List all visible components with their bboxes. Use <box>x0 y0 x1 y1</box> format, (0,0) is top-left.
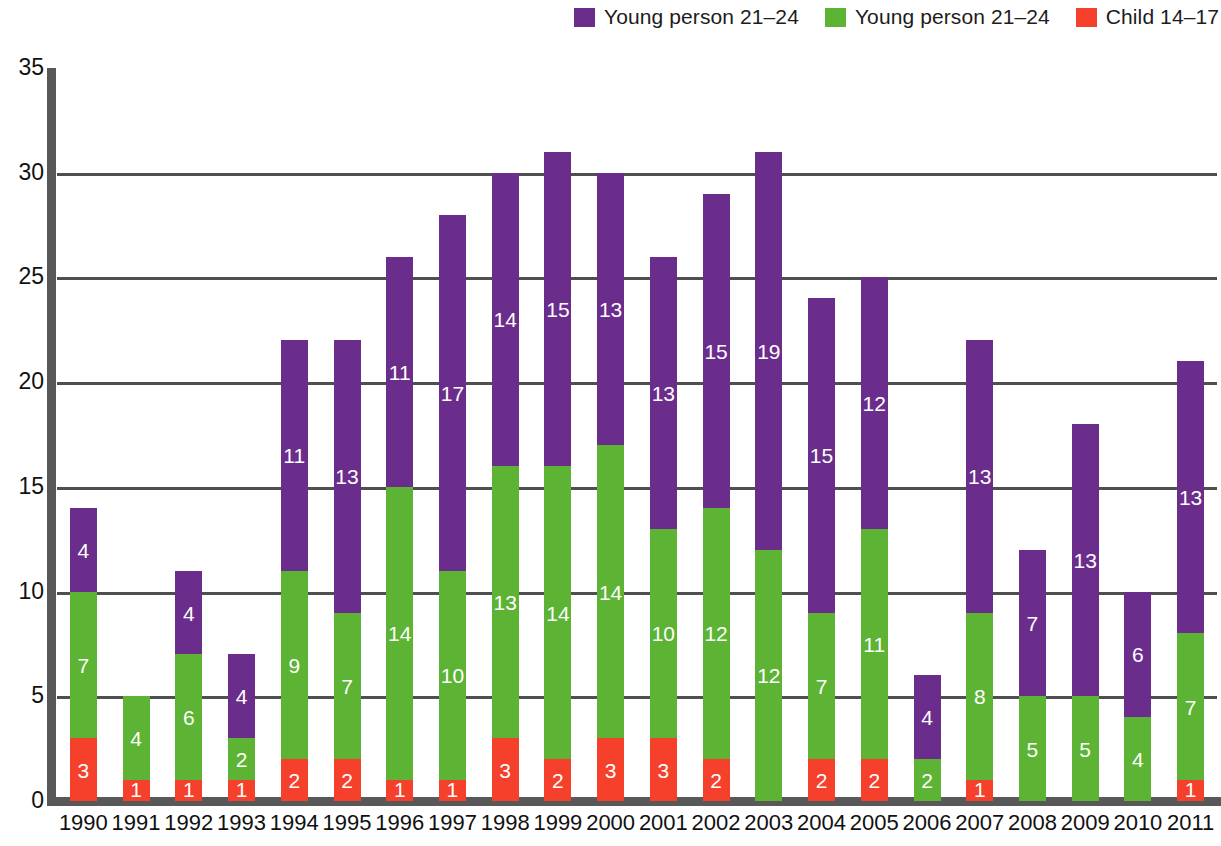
legend-label: Young person 21–24 <box>604 5 799 29</box>
bar-value-label: 2 <box>236 749 248 770</box>
bar-value-label: 4 <box>78 540 90 561</box>
bar-value-label: 2 <box>288 770 300 791</box>
bar-group[interactable]: 2715 <box>808 68 835 801</box>
y-tick-label: 0 <box>0 787 44 814</box>
y-tick-label: 5 <box>0 682 44 709</box>
chart-legend: Young person 21–24Young person 21–24Chil… <box>0 0 1221 34</box>
bar-value-label: 4 <box>183 603 195 624</box>
bar-value-label: 3 <box>658 760 670 781</box>
x-tick-label: 2005 <box>848 810 901 836</box>
bar-value-label: 4 <box>236 686 248 707</box>
bar-value-label: 14 <box>546 603 569 624</box>
bar-value-label: 15 <box>810 445 833 466</box>
y-tick-label: 30 <box>0 159 44 186</box>
legend-swatch-purple <box>574 8 595 27</box>
bar-group[interactable]: 024 <box>914 68 941 801</box>
x-axis-tick-labels: 1990199119921993199419951996199719981999… <box>57 810 1217 846</box>
x-tick-label: 1991 <box>110 810 163 836</box>
bar-value-label: 2 <box>921 770 933 791</box>
bar-group[interactable]: 1713 <box>1177 68 1204 801</box>
bar-group[interactable]: 2713 <box>334 68 361 801</box>
bar-group[interactable]: 140 <box>123 68 150 801</box>
x-tick-label: 2011 <box>1164 810 1217 836</box>
bar-group[interactable]: 01219 <box>755 68 782 801</box>
bar-group[interactable]: 2911 <box>281 68 308 801</box>
bar-value-label: 0 <box>130 674 142 695</box>
bar-value-label: 1 <box>447 779 459 800</box>
y-tick-label: 15 <box>0 473 44 500</box>
x-tick-label: 1997 <box>426 810 479 836</box>
bar-value-label: 15 <box>546 299 569 320</box>
plot-area: 3741401641242911271311411110173131421415… <box>57 68 1217 801</box>
legend-item[interactable]: Young person 21–24 <box>574 5 799 29</box>
bar-group[interactable]: 124 <box>228 68 255 801</box>
bar-group[interactable]: 046 <box>1124 68 1151 801</box>
x-tick-label: 2004 <box>795 810 848 836</box>
bar-group[interactable]: 11017 <box>439 68 466 801</box>
bar-value-label: 7 <box>1185 697 1197 718</box>
bar-value-label: 11 <box>283 445 305 466</box>
x-tick-label: 2009 <box>1059 810 1112 836</box>
bar-value-label: 2 <box>868 770 880 791</box>
bar-value-label: 5 <box>1079 739 1091 760</box>
bar-group[interactable]: 374 <box>70 68 97 801</box>
bar-group[interactable]: 1813 <box>966 68 993 801</box>
x-tick-label: 1996 <box>373 810 426 836</box>
bar-value-label: 2 <box>816 770 828 791</box>
bar-value-label: 1 <box>183 779 195 800</box>
x-tick-label: 2000 <box>584 810 637 836</box>
bars-layer: 3741401641242911271311411110173131421415… <box>57 68 1217 801</box>
y-axis-tick-labels: 05101520253035 <box>0 68 44 801</box>
bar-group[interactable]: 21415 <box>544 68 571 801</box>
bar-value-label: 11 <box>389 362 411 383</box>
bar-group[interactable]: 21112 <box>861 68 888 801</box>
bar-value-label: 14 <box>388 623 411 644</box>
legend-swatch-green <box>825 8 846 27</box>
bar-value-label: 14 <box>599 582 622 603</box>
legend-label: Young person 21–24 <box>855 5 1050 29</box>
bar-value-label: 19 <box>757 341 780 362</box>
bar-group[interactable]: 31013 <box>650 68 677 801</box>
stacked-bar-chart: Young person 21–24Young person 21–24Chil… <box>0 0 1221 846</box>
x-tick-label: 2006 <box>901 810 954 836</box>
y-axis-line <box>47 68 56 805</box>
bar-group[interactable]: 057 <box>1019 68 1046 801</box>
bar-value-label: 3 <box>605 760 617 781</box>
bar-value-label: 2 <box>552 770 564 791</box>
bar-value-label: 4 <box>1132 749 1144 770</box>
bar-value-label: 2 <box>710 770 722 791</box>
bar-value-label: 7 <box>1027 613 1039 634</box>
bar-group[interactable]: 31314 <box>492 68 519 801</box>
bar-value-label: 1 <box>130 779 142 800</box>
x-tick-label: 2001 <box>637 810 690 836</box>
y-tick-label: 35 <box>0 54 44 81</box>
bar-group[interactable]: 0513 <box>1072 68 1099 801</box>
legend-item[interactable]: Young person 21–24 <box>825 5 1050 29</box>
x-tick-label: 1994 <box>268 810 321 836</box>
legend-item[interactable]: Child 14–17 <box>1076 5 1219 29</box>
bar-group[interactable]: 164 <box>175 68 202 801</box>
bar-value-label: 1 <box>1185 779 1197 800</box>
x-tick-label: 1999 <box>532 810 585 836</box>
x-tick-label: 1990 <box>57 810 110 836</box>
bar-value-label: 12 <box>757 665 780 686</box>
bar-value-label: 4 <box>130 728 142 749</box>
bar-group[interactable]: 21215 <box>703 68 730 801</box>
bar-value-label: 9 <box>288 655 300 676</box>
bar-group[interactable]: 11411 <box>386 68 413 801</box>
bar-value-label: 13 <box>599 299 622 320</box>
bar-value-label: 10 <box>652 623 675 644</box>
x-tick-label: 2003 <box>742 810 795 836</box>
x-tick-label: 2002 <box>690 810 743 836</box>
bar-value-label: 12 <box>704 623 727 644</box>
x-tick-label: 2008 <box>1006 810 1059 836</box>
bar-group[interactable]: 31413 <box>597 68 624 801</box>
bar-value-label: 13 <box>493 592 516 613</box>
bar-value-label: 2 <box>341 770 353 791</box>
bar-value-label: 15 <box>704 341 727 362</box>
bar-value-label: 8 <box>974 686 986 707</box>
bar-value-label: 14 <box>493 309 516 330</box>
bar-value-label: 6 <box>183 707 195 728</box>
bar-value-label: 3 <box>78 760 90 781</box>
y-tick-label: 10 <box>0 578 44 605</box>
